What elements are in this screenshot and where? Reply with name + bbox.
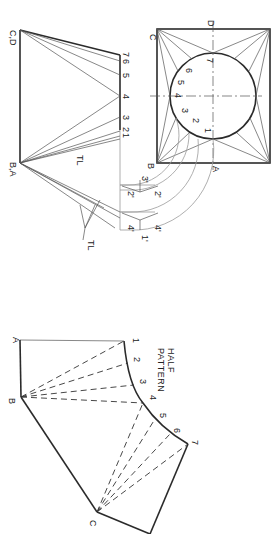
- plan-point-5: 5: [176, 80, 186, 85]
- plan-point-6: 6: [184, 68, 194, 73]
- half-pattern-title-2: PATTERN: [156, 348, 166, 392]
- arc-vees: [122, 180, 158, 230]
- pattern-point-6: 6: [172, 428, 182, 433]
- elev-point-5: 5: [121, 73, 131, 78]
- elev-point-2: 2: [121, 127, 131, 132]
- elev-point-6: 6: [121, 59, 131, 64]
- arc-point-3prime: 3': [140, 176, 150, 183]
- plan-point-3: 3: [180, 108, 190, 113]
- elev-point-3: 3: [121, 115, 131, 120]
- label-BA: B,A: [8, 162, 18, 177]
- elev-point-7: 7: [121, 52, 131, 57]
- pattern-edge-7-out: [150, 444, 188, 534]
- elevation-view: C,D B,A 7 6 5 4 3 2 1 TL TL 3' 2' 2' 4' …: [8, 30, 163, 251]
- elev-point-1: 1: [121, 133, 131, 138]
- plan-view: C D B A 1 2 3 4 5 6 7: [120, 20, 270, 230]
- arc-point-1prime: 1': [140, 235, 150, 242]
- pattern-label-B: B: [7, 398, 17, 404]
- elev-point-4: 4: [121, 94, 131, 99]
- label-C-plan: C: [148, 34, 158, 41]
- label-TL-upper: TL: [75, 155, 85, 166]
- pattern-label-C: C: [88, 520, 98, 527]
- label-B-plan: B: [146, 163, 156, 169]
- half-pattern: A B C 1 2 3 4 5 6 7 HALF PATTERN: [7, 337, 200, 534]
- label-D-plan: D: [206, 20, 216, 27]
- arc-point-4prime-a: 4': [126, 225, 136, 232]
- label-A-plan: A: [211, 166, 221, 172]
- pattern-point-5: 5: [158, 413, 168, 418]
- pattern-point-2: 2: [132, 357, 142, 362]
- pattern-edge-C-out: [97, 512, 150, 534]
- pattern-point-7: 7: [190, 440, 200, 445]
- arc-point-2prime-a: 2': [126, 191, 136, 198]
- swing-arcs: [120, 118, 214, 230]
- label-TL-lower: TL: [86, 240, 96, 251]
- label-CD: C,D: [8, 30, 18, 46]
- pattern-edge-A-1: [20, 340, 124, 341]
- plan-point-4: 4: [173, 93, 183, 98]
- pattern-edge-B-C: [21, 397, 97, 512]
- plan-point-1: 1: [203, 128, 213, 133]
- plan-point-2: 2: [191, 118, 201, 123]
- pattern-point-1: 1: [131, 338, 141, 343]
- arc-point-4prime-b: 4': [153, 225, 163, 232]
- pattern-point-3: 3: [138, 379, 148, 384]
- pattern-edge-A-B: [20, 340, 21, 397]
- pattern-label-A: A: [11, 337, 21, 343]
- pattern-point-4: 4: [148, 395, 158, 400]
- arc-point-2prime-b: 2': [153, 191, 163, 198]
- pattern-drawing: C D B A 1 2 3 4 5 6 7: [0, 0, 277, 534]
- half-pattern-title-1: HALF: [166, 348, 176, 373]
- elevation-true-lengths: [20, 30, 120, 228]
- plan-point-7: 7: [205, 58, 215, 63]
